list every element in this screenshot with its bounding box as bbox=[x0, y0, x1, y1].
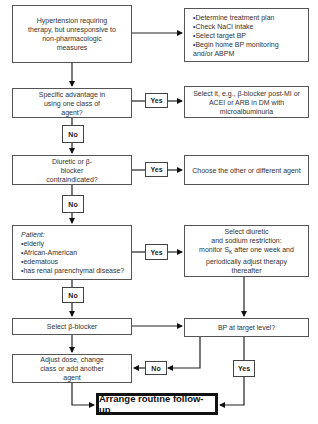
initial-steps-list: Determine treatment plan Check NaCl inta… bbox=[193, 13, 293, 58]
arrange-follow-up-text: Arrange routine follow-up bbox=[99, 393, 215, 415]
step-item: Determine treatment plan bbox=[193, 13, 293, 22]
start-box: Hypertension requiring therapy, but unre… bbox=[12, 5, 132, 63]
yes-label: Yes bbox=[233, 360, 255, 377]
contraindicated-text: Diuretic or β-blocker contraindicated? bbox=[13, 157, 131, 184]
adjust-dose-box: Adjust dose, change class or add another… bbox=[12, 354, 132, 383]
no-label: No bbox=[62, 125, 84, 143]
select-beta-blocker-text: Select β-blocker bbox=[47, 322, 97, 331]
initial-steps-box: Determine treatment plan Check NaCl inta… bbox=[184, 8, 309, 62]
no-label: No bbox=[62, 195, 84, 213]
diuretic-line: periodically adjust therapy bbox=[206, 257, 287, 266]
no-label: No bbox=[62, 287, 84, 303]
arrange-follow-up-box: Arrange routine follow-up bbox=[96, 393, 218, 415]
bp-target-box: BP at target level? bbox=[184, 318, 309, 337]
diuretic-text: monitor S bbox=[199, 246, 229, 253]
select-diuretic-box: Select diuretic and sodium restriction: … bbox=[184, 225, 309, 277]
step-item: Select target BP bbox=[193, 31, 293, 40]
diuretic-line: thereafter bbox=[232, 266, 262, 275]
criteria-item: African-American bbox=[21, 248, 124, 257]
diuretic-line: monitor SK after one week and bbox=[199, 245, 294, 257]
criteria-item: elderly bbox=[21, 239, 124, 248]
specific-advantage-text: Specific advantage in using one class of… bbox=[13, 90, 131, 117]
yes-label: Yes bbox=[145, 162, 168, 177]
yes-label: Yes bbox=[145, 244, 168, 260]
diuretic-line: Select diuretic bbox=[225, 227, 269, 236]
diuretic-line: and sodium restriction: bbox=[211, 236, 281, 245]
patient-criteria-list: elderly African-American edematous has r… bbox=[21, 239, 124, 275]
patient-box: Patient: elderly African-American edemat… bbox=[12, 225, 132, 280]
contraindicated-box: Diuretic or β-blocker contraindicated? bbox=[12, 155, 132, 185]
select-it-box: Select it, e.g., β-blocker post-MI or AC… bbox=[184, 86, 309, 118]
diuretic-text: after one week and bbox=[232, 246, 294, 253]
yes-label: Yes bbox=[145, 93, 168, 108]
specific-advantage-box: Specific advantage in using one class of… bbox=[12, 88, 132, 118]
select-beta-blocker-box: Select β-blocker bbox=[12, 318, 132, 335]
select-it-text: Select it, e.g., β-blocker post-MI or AC… bbox=[185, 89, 308, 116]
bp-target-text: BP at target level? bbox=[218, 323, 275, 332]
adjust-dose-text: Adjust dose, change class or add another… bbox=[13, 355, 131, 382]
choose-other-box: Choose the other or different agent bbox=[184, 155, 309, 185]
criteria-item: has renal parenchymal disease? bbox=[21, 266, 124, 275]
criteria-item: edematous bbox=[21, 257, 124, 266]
no-label: No bbox=[145, 361, 167, 375]
patient-title: Patient: bbox=[21, 230, 45, 239]
choose-other-text: Choose the other or different agent bbox=[192, 166, 300, 175]
start-text: Hypertension requiring therapy, but unre… bbox=[13, 16, 131, 52]
step-item: Check NaCl intake bbox=[193, 22, 293, 31]
step-item: Begin home BP monitoring and/or ABPM bbox=[193, 40, 293, 58]
